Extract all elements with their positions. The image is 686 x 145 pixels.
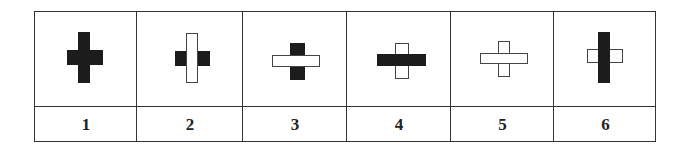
horizontal-white-bar-icon (480, 53, 528, 64)
vertical-black-bar-icon (598, 32, 610, 83)
horizontal-white-bar-icon (272, 55, 320, 67)
cell-label-2: 2 (137, 107, 243, 142)
cell-label-5: 5 (451, 107, 554, 142)
cell-label-3: 3 (243, 107, 347, 142)
horizontal-black-bar-icon (67, 50, 103, 65)
horizontal-black-bar-icon (377, 54, 426, 66)
cell-label-1: 1 (35, 107, 137, 142)
cell-label-6: 6 (554, 107, 657, 142)
figure-table: 123456 (34, 11, 656, 142)
vertical-white-bar-icon (186, 33, 198, 83)
cell-label-4: 4 (347, 107, 451, 142)
